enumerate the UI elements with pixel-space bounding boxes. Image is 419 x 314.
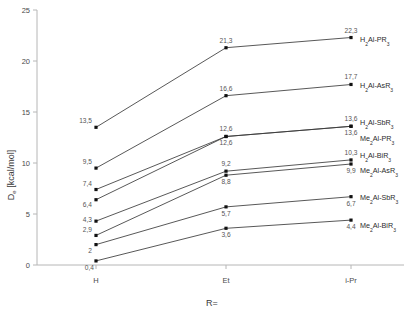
- x-axis-ticks: HEti-Pr: [93, 265, 357, 285]
- data-point-value-label: 6,4: [83, 201, 92, 208]
- x-tick-label: H: [93, 276, 98, 285]
- x-tick-label: Et: [222, 276, 230, 285]
- data-point-value-label: 5,7: [221, 210, 230, 217]
- x-tick-label: i-Pr: [345, 276, 357, 285]
- data-point-value-label: 0,4: [85, 264, 94, 271]
- data-point-value-label: 9,2: [221, 160, 230, 167]
- data-point-value-label: 13,6: [345, 129, 358, 136]
- data-point-value-label: 12,6: [220, 139, 233, 146]
- y-tick-label: 0: [26, 261, 30, 270]
- series-label: Me2Al-PR3: [360, 134, 395, 145]
- x-axis-title: R=: [206, 298, 218, 308]
- series-lines-group: [96, 38, 351, 261]
- data-point-marker: [94, 234, 97, 237]
- chart-container: 0510152025 HEti-Pr 13,521,322,39,516,617…: [0, 0, 419, 314]
- data-point-value-label: 3,6: [221, 231, 230, 238]
- data-point-value-label: 10,3: [345, 149, 358, 156]
- series-label: Me2Al-SbR3: [360, 193, 399, 204]
- data-point-marker: [224, 170, 227, 173]
- data-point-value-label: 12,6: [220, 125, 233, 132]
- series-label: H2Al-PR3: [360, 35, 390, 46]
- data-point-marker: [349, 36, 352, 39]
- data-point-value-label: 4,4: [346, 223, 355, 230]
- line-chart: 0510152025 HEti-Pr 13,521,322,39,516,617…: [0, 0, 419, 314]
- data-point-marker: [349, 195, 352, 198]
- data-point-marker: [94, 167, 97, 170]
- data-point-marker: [349, 158, 352, 161]
- series-label: Me2Al-BiR3: [360, 221, 396, 232]
- series-legend-labels-group: H2Al-PR3H2Al-AsR3H2Al-SbR3Me2Al-PR3H2Al-…: [360, 35, 399, 232]
- data-point-value-label: 21,3: [220, 37, 233, 44]
- data-point-marker: [94, 243, 97, 246]
- data-point-value-label: 13,5: [79, 117, 92, 124]
- data-point-labels-group: 13,521,322,39,516,617,77,412,613,66,412,…: [79, 27, 358, 271]
- data-point-marker: [224, 227, 227, 230]
- y-tick-label: 20: [22, 57, 30, 66]
- series-line: [96, 38, 351, 128]
- data-point-value-label: 2: [88, 247, 92, 254]
- data-point-value-label: 2,9: [83, 226, 92, 233]
- data-point-value-label: 6,7: [346, 200, 355, 207]
- data-point-marker: [224, 46, 227, 49]
- y-tick-label: 5: [26, 210, 30, 219]
- data-point-value-label: 22,3: [345, 27, 358, 34]
- series-label: H2Al-SbR3: [360, 118, 394, 129]
- data-point-marker: [94, 188, 97, 191]
- data-point-marker: [349, 219, 352, 222]
- y-axis-ticks: 0510152025: [22, 6, 37, 270]
- series-label: Me2Al-AsR3: [360, 166, 398, 177]
- y-tick-label: 15: [22, 108, 30, 117]
- data-point-value-label: 16,6: [220, 85, 233, 92]
- data-point-value-label: 9,5: [83, 158, 92, 165]
- data-point-marker: [224, 205, 227, 208]
- data-point-marker: [94, 126, 97, 129]
- data-point-value-label: 7,4: [83, 180, 92, 187]
- data-point-marker: [349, 125, 352, 128]
- data-point-marker: [224, 174, 227, 177]
- series-label: H2Al-AsR3: [360, 81, 393, 92]
- data-point-marker: [94, 259, 97, 262]
- data-point-marker: [224, 94, 227, 97]
- data-point-value-label: 8,8: [221, 178, 230, 185]
- data-point-value-label: 13,6: [345, 115, 358, 122]
- y-tick-label: 10: [22, 159, 30, 168]
- data-point-marker: [94, 220, 97, 223]
- data-point-marker: [349, 83, 352, 86]
- data-point-value-label: 4,3: [83, 216, 92, 223]
- data-point-marker: [349, 162, 352, 165]
- series-label: H2Al-BiR3: [360, 151, 391, 162]
- y-tick-label: 25: [22, 6, 30, 15]
- data-point-value-label: 9,9: [346, 167, 355, 174]
- data-point-marker: [224, 135, 227, 138]
- series-line: [96, 220, 351, 261]
- y-axis-title-group: De [kcal/mol]: [6, 150, 17, 200]
- y-axis-title: De [kcal/mol]: [6, 150, 17, 200]
- data-point-value-label: 17,7: [345, 73, 358, 80]
- data-point-marker: [94, 198, 97, 201]
